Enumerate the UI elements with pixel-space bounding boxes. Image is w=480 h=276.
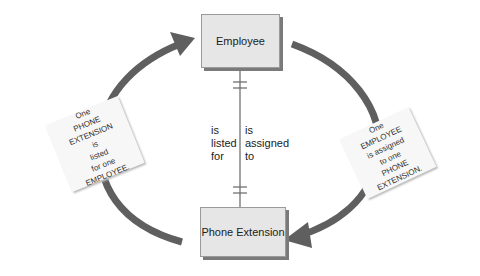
entity-phone-extension: Phone Extension — [200, 207, 286, 257]
relationship-label-left: is listed for — [211, 124, 237, 163]
label-word: is — [211, 124, 237, 137]
label-word: listed — [211, 137, 237, 150]
label-word: for — [211, 150, 237, 163]
label-word: to — [245, 150, 289, 163]
label-word: is — [245, 124, 289, 137]
entity-employee: Employee — [201, 14, 280, 68]
relationship-label-right: is assigned to — [245, 124, 289, 163]
entity-label: Employee — [216, 35, 265, 47]
label-word: assigned — [245, 137, 289, 150]
right-arrowhead-icon — [284, 222, 312, 248]
entity-label: Phone Extension — [201, 226, 284, 238]
